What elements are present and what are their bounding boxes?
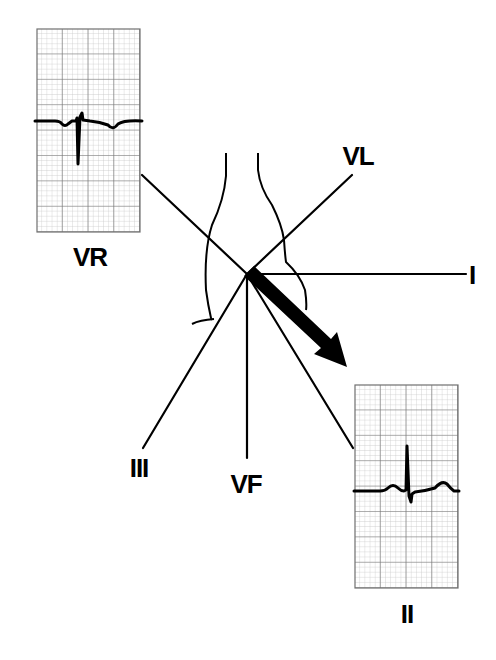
hexaxial-diagram bbox=[0, 0, 496, 660]
lead-line-iii bbox=[143, 274, 247, 448]
lead-label-ii: II bbox=[401, 599, 413, 630]
lead-label-vl: VL bbox=[342, 141, 373, 172]
lead-label-i: I bbox=[469, 260, 475, 291]
lead-line-vr bbox=[142, 175, 247, 274]
ecg-strip-vr bbox=[35, 29, 142, 232]
ecg-strip-ii bbox=[354, 385, 459, 588]
lead-label-vf: VF bbox=[230, 469, 261, 500]
lead-label-iii: III bbox=[130, 453, 149, 484]
lead-label-vr: VR bbox=[73, 242, 107, 273]
